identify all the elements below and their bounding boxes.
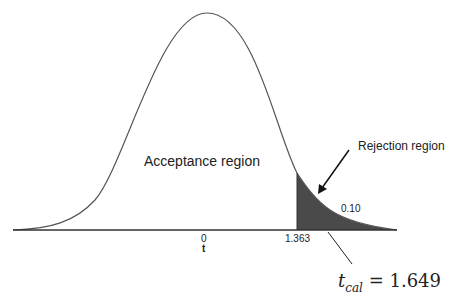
- tcal-label: tcal = 1.649: [338, 270, 441, 295]
- distribution-curve: [13, 13, 397, 230]
- arrow-head-icon: [318, 184, 327, 194]
- tcal-subscript: cal: [345, 281, 363, 295]
- rejection-region-label: Rejection region: [358, 139, 445, 153]
- alpha-label: 0.10: [341, 203, 360, 214]
- axis-variable-label: t: [202, 243, 205, 254]
- tcal-value: = 1.649: [369, 270, 441, 291]
- rejection-arrow: [322, 150, 349, 188]
- critical-value-label: 1.363: [285, 233, 310, 244]
- acceptance-region-label: Acceptance region: [144, 153, 260, 169]
- tcal-pointer-line: [328, 232, 352, 264]
- rejection-region-shading: [297, 173, 397, 230]
